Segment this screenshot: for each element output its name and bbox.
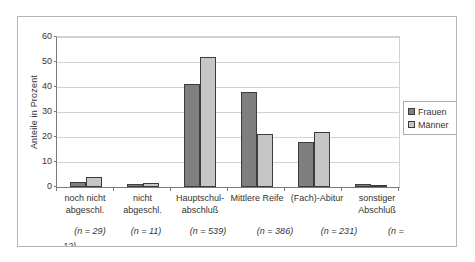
bar-frauen-5	[355, 184, 371, 187]
gridline-30	[57, 112, 399, 113]
bar-männer-0	[86, 177, 102, 187]
x-tick-mark	[56, 187, 57, 191]
chart-frame: Anteile in Prozent 0102030405060 noch ni…	[17, 16, 457, 247]
gridline-50	[57, 62, 399, 63]
y-tick-label: 50	[18, 56, 52, 66]
männer-color-swatch	[408, 121, 415, 128]
bar-frauen-1	[127, 184, 143, 187]
gridline-40	[57, 87, 399, 88]
legend-item-männer: Männer	[408, 118, 457, 131]
legend-label-frauen: Frauen	[418, 107, 447, 117]
y-tick-label: 40	[18, 81, 52, 91]
gridline-60	[57, 37, 399, 38]
bar-frauen-2	[184, 84, 200, 187]
x-n-label-5: (n =	[344, 226, 448, 236]
plot-area	[56, 36, 400, 188]
legend-label-männer: Männer	[418, 120, 449, 130]
x-n-label-wrapped: 12)	[63, 241, 76, 247]
x-category-label-line: sonstiger	[325, 193, 429, 205]
x-tick-mark	[113, 187, 114, 191]
gridline-20	[57, 137, 399, 138]
bar-frauen-4	[298, 142, 314, 187]
bar-frauen-0	[70, 182, 86, 187]
y-tick-label: 30	[18, 106, 52, 116]
y-tick-label: 20	[18, 131, 52, 141]
x-category-label-line: Abschluß	[325, 205, 429, 217]
bar-männer-2	[200, 57, 216, 187]
bar-männer-1	[143, 183, 159, 187]
bar-männer-3	[257, 134, 273, 187]
gridline-10	[57, 162, 399, 163]
x-category-label-5: sonstigerAbschluß	[325, 193, 429, 216]
chart-page: Anteile in Prozent 0102030405060 noch ni…	[0, 0, 475, 262]
x-category-label-line: abschluß	[148, 205, 252, 217]
legend: FrauenMänner	[403, 101, 457, 135]
x-tick-mark	[227, 187, 228, 191]
y-tick-label: 0	[18, 181, 52, 191]
x-tick-mark	[170, 187, 171, 191]
legend-item-frauen: Frauen	[408, 105, 457, 118]
y-tick-label: 60	[18, 31, 52, 41]
bar-frauen-3	[241, 92, 257, 187]
x-tick-mark	[398, 187, 399, 191]
x-tick-mark	[284, 187, 285, 191]
x-tick-mark	[341, 187, 342, 191]
bar-männer-5	[371, 185, 387, 187]
frauen-color-swatch	[408, 108, 415, 115]
bar-männer-4	[314, 132, 330, 187]
y-tick-label: 10	[18, 156, 52, 166]
